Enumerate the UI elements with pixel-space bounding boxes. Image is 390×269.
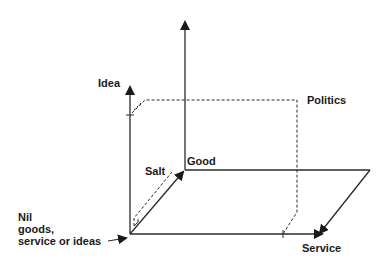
- service-label: Service: [302, 242, 341, 254]
- nil-label-line1: Nil: [18, 211, 32, 223]
- nil-label-line3: service or ideas: [18, 235, 101, 247]
- nil-pointer: [108, 238, 126, 241]
- salt-dashed-path: [134, 172, 172, 226]
- good-axis: [130, 172, 183, 234]
- good-label: Good: [187, 155, 216, 167]
- diagram-canvas: [0, 0, 390, 269]
- good-service-diagonal: [320, 170, 370, 233]
- idea-dashed-secondary: [134, 103, 141, 110]
- nil-label-line2: goods,: [18, 223, 54, 235]
- politics-label: Politics: [307, 94, 346, 106]
- salt-label: Salt: [145, 165, 165, 177]
- idea-label: Idea: [98, 77, 120, 89]
